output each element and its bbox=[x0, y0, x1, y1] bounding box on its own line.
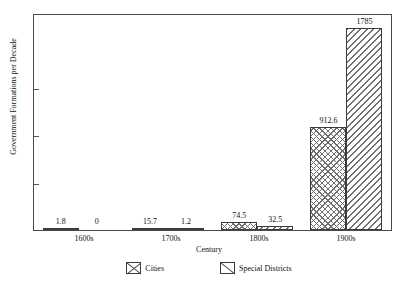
x-axis-label-1800s: 1800s bbox=[233, 234, 285, 243]
y-axis-title: Government Formations per Decade bbox=[9, 12, 18, 182]
bar-1700s-cities bbox=[132, 228, 168, 230]
x-axis-label-1600s: 1600s bbox=[58, 234, 110, 243]
x-axis-label-1700s: 1700s bbox=[145, 234, 197, 243]
bar-1700s-special-districts bbox=[168, 228, 204, 230]
legend-label-cities: Cities bbox=[145, 264, 164, 273]
legend-swatch-diagonal-icon bbox=[220, 262, 235, 274]
x-axis-title: Century bbox=[0, 245, 418, 254]
bar-value-label: 1.2 bbox=[162, 217, 210, 226]
legend-swatch-crosshatch-icon bbox=[126, 262, 141, 274]
bar-1600s-cities bbox=[43, 228, 79, 230]
legend-item-cities: Cities bbox=[126, 262, 164, 274]
legend-label-special-districts: Special Districts bbox=[239, 264, 292, 273]
legend: Cities Special Districts bbox=[0, 262, 418, 274]
bar-value-label: 1785 bbox=[340, 17, 388, 26]
bar-value-label: 912.6 bbox=[304, 116, 352, 125]
plot-frame: 1.8015.71.274.532.5912.61785 bbox=[33, 14, 392, 231]
bar-value-label: 0 bbox=[73, 217, 121, 226]
legend-item-special-districts: Special Districts bbox=[220, 262, 292, 274]
bar-value-label: 32.5 bbox=[251, 215, 299, 224]
bar-1800s-special-districts bbox=[257, 226, 293, 230]
bar-1900s-cities bbox=[310, 127, 346, 230]
x-axis-label-1900s: 1900s bbox=[320, 234, 372, 243]
bar-1900s-special-districts bbox=[346, 28, 382, 230]
chart-title bbox=[0, 0, 418, 1]
y-axis-tick bbox=[34, 136, 39, 137]
plot-area: 1.8015.71.274.532.5912.61785 bbox=[34, 15, 391, 230]
y-axis-tick bbox=[34, 89, 39, 90]
y-axis-tick bbox=[34, 184, 39, 185]
